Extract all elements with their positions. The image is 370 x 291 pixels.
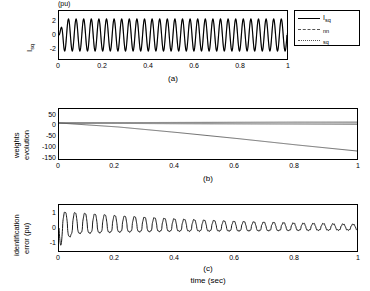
panel-b-ytick-minus150: -150: [28, 154, 56, 161]
panel-b-ytick-50: 50: [36, 111, 56, 118]
panel-a-ylabel-main: I: [25, 50, 34, 52]
panel-a-xtick-02: 0.2: [94, 62, 110, 69]
legend-label-sq: sq: [323, 36, 329, 45]
panel-b-xtick-08: 0.8: [286, 162, 302, 169]
panel-b-axes: [58, 108, 358, 160]
panel-b-xtick-04: 0.4: [166, 162, 182, 169]
legend-item-sq: sq: [298, 35, 329, 45]
panel-c-axes: [58, 204, 358, 252]
legend-box: Isq nn sq: [294, 10, 360, 46]
panel-a-xtick-04: 0.4: [140, 62, 156, 69]
panel-c-xtick-08: 0.8: [286, 254, 302, 261]
panel-b-plot: [59, 109, 357, 159]
panel-a-axes: [58, 10, 288, 60]
panel-c-ytick-1: 1: [40, 209, 56, 216]
panel-c-caption: (c): [193, 264, 223, 273]
panel-b-ytick-minus100: -100: [28, 143, 56, 150]
panel-b-ytick-minus50: -50: [32, 132, 56, 139]
panel-c-xtick-06: 0.6: [226, 254, 242, 261]
legend-sample-dotted: [298, 40, 320, 41]
panel-b-ytick-0: 0: [36, 121, 56, 128]
legend-sample-solid-thick: [298, 18, 320, 19]
panel-b-ylabel-line2: evolution: [22, 130, 31, 160]
panel-c-xtick-02: 0.2: [106, 254, 122, 261]
panel-b-ylabel-line1: weights: [12, 133, 21, 158]
panel-a-xtick-08: 0.8: [232, 62, 248, 69]
legend-sample-dashed: [298, 29, 320, 30]
panel-c-xtick-04: 0.4: [166, 254, 182, 261]
panel-b-xtick-02: 0.2: [106, 162, 122, 169]
panel-c: 1 0 -1 0 0.2 0.4 0.6 0.8 1 identificatio…: [0, 196, 370, 291]
panel-a-ytick-minus2: -2: [38, 45, 56, 52]
panel-c-xtick-1: 1: [352, 254, 364, 261]
legend-label-nn: nn: [323, 25, 329, 34]
panel-c-ytick-0: 0: [40, 224, 56, 231]
panel-c-ylabel-line1: identification: [12, 214, 21, 256]
panel-b-xtick-0: 0: [52, 162, 64, 169]
panel-b-xtick-1: 1: [352, 162, 364, 169]
panel-a-caption: (a): [158, 74, 188, 83]
legend-item-isq: Isq: [298, 13, 331, 23]
panel-a-unit: (pu): [58, 0, 82, 7]
panel-a-xtick-1: 1: [282, 62, 294, 69]
panel-c-plot: [59, 205, 357, 251]
figure-xlabel: time (sec): [168, 276, 248, 285]
legend-label-isq: Isq: [323, 14, 331, 23]
panel-a-ytick-0: 0: [42, 31, 56, 38]
panel-b-xtick-06: 0.6: [226, 162, 242, 169]
panel-a: 2 0 -2 0 0.2 0.4 0.6 0.8 1 Isq (pu) (a) …: [0, 0, 370, 96]
panel-b-caption: (b): [193, 174, 223, 183]
panel-c-ylabel-line2: error (pu): [22, 223, 31, 254]
panel-a-xtick-06: 0.6: [186, 62, 202, 69]
panel-a-xtick-0: 0: [52, 62, 64, 69]
panel-a-ylabel-sub: sq: [29, 44, 35, 50]
legend-item-nn: nn: [298, 24, 329, 34]
panel-c-ytick-minus1: -1: [36, 239, 56, 246]
panel-a-plot: [59, 11, 287, 59]
panel-a-ylabel: Isq: [25, 44, 35, 52]
panel-b: 50 0 -50 -100 -150 0 0.2 0.4 0.6 0.8 1 w…: [0, 96, 370, 196]
figure-root: 2 0 -2 0 0.2 0.4 0.6 0.8 1 Isq (pu) (a) …: [0, 0, 370, 291]
panel-c-xtick-0: 0: [52, 254, 64, 261]
panel-a-ytick-2: 2: [42, 17, 56, 24]
